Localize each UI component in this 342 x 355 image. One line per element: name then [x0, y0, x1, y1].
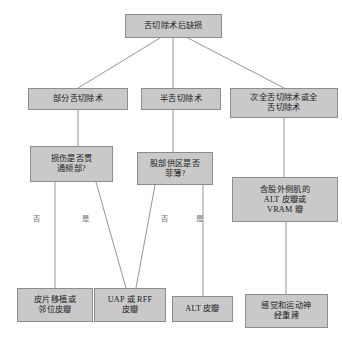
node-skin-graft-local-flap-line1: 皮片移植或 [34, 295, 76, 305]
edge-label-mid-yes: 是 [196, 212, 203, 223]
node-skin-graft-local-flap-line2: 邻位皮瓣 [38, 305, 72, 315]
node-defect-through-chin-line1: 损伤是否贯 [51, 154, 93, 164]
node-defect-through-chin-line2: 通颏部? [57, 164, 86, 174]
node-skin-graft-local-flap[interactable]: 皮片移植或 邻位皮瓣 [17, 288, 93, 322]
node-alt-vram-flap-line3: VRAM 瓣 [267, 205, 303, 215]
edge-label-left-yes: 是 [82, 212, 89, 223]
node-hemiglossectomy[interactable]: 半舌切除术 [141, 88, 221, 110]
node-root-label: 舌切除术后缺损 [144, 21, 203, 31]
node-alt-vram-flap-line2: ALT 皮瓣或 [264, 195, 306, 205]
node-partial-glossectomy[interactable]: 部分舌切除术 [28, 88, 128, 110]
node-thigh-donor-thin-line2: 菲薄? [165, 169, 186, 179]
node-alt-flap-label: ALT 皮瓣 [185, 304, 219, 314]
node-sensory-motor-reconstruction-line1: 感觉和运动神 [261, 301, 311, 311]
node-alt-flap[interactable]: ALT 皮瓣 [172, 296, 233, 322]
node-alt-vram-flap-line1: 含股外侧肌的 [260, 185, 310, 195]
node-sensory-motor-reconstruction[interactable]: 感觉和运动神 经重建 [245, 294, 328, 328]
node-hemiglossectomy-label: 半舌切除术 [160, 94, 202, 104]
edge-thigh-no-to-uaprff [136, 185, 155, 288]
node-alt-vram-flap[interactable]: 含股外侧肌的 ALT 皮瓣或 VRAM 瓣 [232, 177, 338, 222]
node-uap-rff-flap-line2: 皮瓣 [122, 305, 139, 315]
edge-label-mid-no: 否 [161, 212, 168, 223]
node-thigh-donor-thin-line1: 股部供区是否 [150, 159, 200, 169]
node-defect-through-chin[interactable]: 损伤是否贯 通颏部? [30, 146, 113, 182]
node-uap-rff-flap-line1: UAP 或 RFF [108, 295, 153, 305]
node-root[interactable]: 舌切除术后缺损 [125, 14, 222, 38]
node-uap-rff-flap[interactable]: UAP 或 RFF 皮瓣 [94, 288, 166, 322]
edge-root-to-partial [78, 38, 160, 88]
edge-chin-yes-to-uaprff [96, 182, 126, 288]
node-subtotal-total-glossectomy-line2: 舌切除术 [267, 103, 301, 113]
edge-label-left-no: 否 [33, 212, 40, 223]
edge-root-to-subtotal [188, 38, 284, 88]
node-subtotal-total-glossectomy-line1: 次全舌切除术或全 [250, 93, 317, 103]
flowchart-canvas: 舌切除术后缺损 部分舌切除术 半舌切除术 次全舌切除术或全 舌切除术 损伤是否贯… [0, 0, 342, 355]
node-partial-glossectomy-label: 部分舌切除术 [53, 94, 103, 104]
node-subtotal-total-glossectomy[interactable]: 次全舌切除术或全 舌切除术 [230, 88, 338, 118]
node-sensory-motor-reconstruction-line2: 经重建 [274, 311, 299, 321]
node-thigh-donor-thin[interactable]: 股部供区是否 菲薄? [137, 152, 213, 185]
